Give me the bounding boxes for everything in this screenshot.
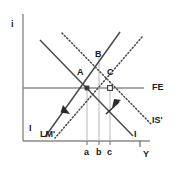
- point-label-a: A: [77, 68, 84, 77]
- is-prime-curve: [62, 33, 152, 125]
- marker-point-c: [108, 86, 113, 91]
- point-label-b: B: [95, 50, 102, 59]
- lm-shift-arrow: [106, 99, 121, 114]
- axes-group: [23, 14, 150, 141]
- is-prime-label: IS': [152, 116, 163, 125]
- is-shift-arrow: [61, 105, 71, 114]
- lm-curve: [45, 32, 120, 137]
- is-curve-label-right: I: [134, 130, 137, 139]
- chart-canvas: [0, 0, 176, 170]
- lm-prime-label: LM': [40, 130, 55, 139]
- x-tick-label-a: a: [84, 148, 89, 157]
- x-axis-label: Y: [143, 150, 149, 159]
- fe-line-label: FE: [152, 83, 164, 92]
- point-label-c: C: [107, 68, 114, 77]
- y-axis-label: i: [11, 20, 14, 29]
- marker-point-a: [85, 86, 90, 91]
- x-tick-label-b: b: [96, 148, 102, 157]
- is-curve-label-left: I: [29, 124, 32, 133]
- ismlm-fe-figure: i Y A B C FE IS' LM' I I a b c: [0, 0, 176, 170]
- x-tick-marks: [87, 141, 140, 147]
- x-tick-label-c: c: [107, 148, 112, 157]
